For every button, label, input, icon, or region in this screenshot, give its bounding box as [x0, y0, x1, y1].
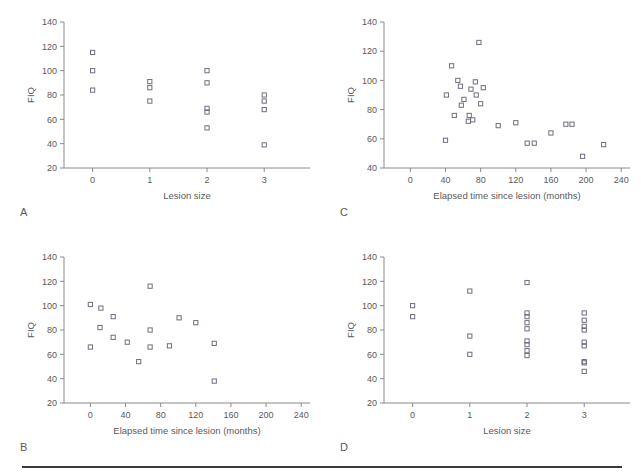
y-axis-title: FIQ: [345, 87, 356, 103]
scatter-plot-c: 40608010012014004080120160200240Elapsed …: [338, 8, 638, 208]
y-tick-label: 80: [47, 325, 57, 335]
scatter-plot-a: 204060801001201400123Lesion sizeFIQ: [18, 8, 318, 208]
data-point: [148, 328, 152, 332]
data-point: [525, 349, 529, 353]
panel-d-letter: D: [340, 441, 348, 453]
data-point: [411, 315, 415, 319]
y-tick-label: 60: [47, 350, 57, 360]
data-point: [212, 379, 216, 383]
data-point: [98, 325, 102, 329]
x-tick-label: 200: [259, 410, 274, 420]
data-point: [481, 86, 485, 90]
data-point: [479, 102, 483, 106]
x-axis-title: Lesion size: [483, 425, 531, 436]
y-tick-label: 80: [47, 90, 57, 100]
data-point: [167, 344, 171, 348]
data-point: [125, 340, 129, 344]
data-point: [471, 118, 475, 122]
y-tick-label: 140: [42, 17, 57, 27]
data-point: [91, 88, 95, 92]
data-point: [582, 318, 586, 322]
y-tick-label: 120: [362, 277, 377, 287]
x-tick-label: 40: [120, 410, 130, 420]
x-tick-label: 0: [410, 410, 415, 420]
x-tick-label: 0: [408, 175, 413, 185]
data-point: [177, 316, 181, 320]
y-tick-label: 40: [47, 139, 57, 149]
data-point: [443, 138, 447, 142]
data-point: [525, 353, 529, 357]
y-tick-label: 140: [42, 252, 57, 262]
y-axis-title: FIQ: [25, 87, 36, 103]
y-tick-label: 140: [362, 252, 377, 262]
data-point: [411, 304, 415, 308]
x-axis-title: Elapsed time since lesion (months): [433, 190, 580, 201]
data-point: [582, 360, 586, 364]
data-point: [194, 321, 198, 325]
data-point: [473, 80, 477, 84]
x-tick-label: 240: [614, 175, 629, 185]
data-point: [570, 122, 574, 126]
x-tick-label: 80: [476, 175, 486, 185]
panel-b-plot: 2040608010012014004080120160200240Elapse…: [18, 243, 318, 443]
data-point: [262, 99, 266, 103]
panel-a-plot: 204060801001201400123Lesion sizeFIQ: [18, 8, 318, 208]
data-point: [477, 40, 481, 44]
data-point: [88, 302, 92, 306]
x-axis-title: Lesion size: [163, 190, 211, 201]
x-tick-label: 0: [88, 410, 93, 420]
y-tick-label: 40: [47, 374, 57, 384]
data-point: [205, 69, 209, 73]
data-point: [262, 143, 266, 147]
panel-a-letter: A: [20, 206, 27, 218]
data-point: [532, 141, 536, 145]
data-point: [452, 113, 456, 117]
data-point: [602, 143, 606, 147]
data-point: [458, 84, 462, 88]
x-axis-title: Elapsed time since lesion (months): [113, 425, 260, 436]
panel-d-plot: 204060801001201400123Lesion sizeFIQ: [338, 243, 638, 443]
data-point: [549, 131, 553, 135]
data-point: [525, 141, 529, 145]
data-point: [148, 86, 152, 90]
y-tick-label: 120: [362, 46, 377, 56]
y-tick-label: 100: [362, 301, 377, 311]
y-tick-label: 20: [367, 398, 377, 408]
panel-c-plot: 40608010012014004080120160200240Elapsed …: [338, 8, 638, 208]
y-axis-title: FIQ: [345, 322, 356, 338]
data-point: [469, 87, 473, 91]
x-tick-label: 80: [156, 410, 166, 420]
panel-c-letter: C: [340, 206, 348, 218]
x-tick-label: 0: [90, 175, 95, 185]
y-tick-label: 140: [362, 17, 377, 27]
x-tick-label: 200: [579, 175, 594, 185]
data-point: [525, 321, 529, 325]
data-point: [91, 69, 95, 73]
y-tick-label: 40: [367, 163, 377, 173]
footer-rule: [22, 466, 622, 468]
data-point: [467, 113, 471, 117]
x-tick-label: 1: [147, 175, 152, 185]
data-point: [88, 345, 92, 349]
y-tick-label: 80: [367, 105, 377, 115]
data-point: [468, 334, 472, 338]
data-point: [582, 369, 586, 373]
y-tick-label: 40: [367, 374, 377, 384]
x-tick-label: 2: [205, 175, 210, 185]
y-tick-label: 20: [47, 163, 57, 173]
data-point: [582, 361, 586, 365]
x-tick-label: 1: [467, 410, 472, 420]
y-tick-label: 80: [367, 325, 377, 335]
data-point: [496, 124, 500, 128]
data-point: [514, 121, 518, 125]
data-point: [262, 108, 266, 112]
y-tick-label: 100: [362, 76, 377, 86]
data-point: [99, 306, 103, 310]
figure-page: 204060801001201400123Lesion sizeFIQ A 40…: [0, 0, 644, 474]
data-point: [580, 154, 584, 158]
x-tick-label: 120: [508, 175, 523, 185]
data-point: [148, 80, 152, 84]
data-point: [525, 280, 529, 284]
data-point: [148, 284, 152, 288]
x-tick-label: 2: [525, 410, 530, 420]
